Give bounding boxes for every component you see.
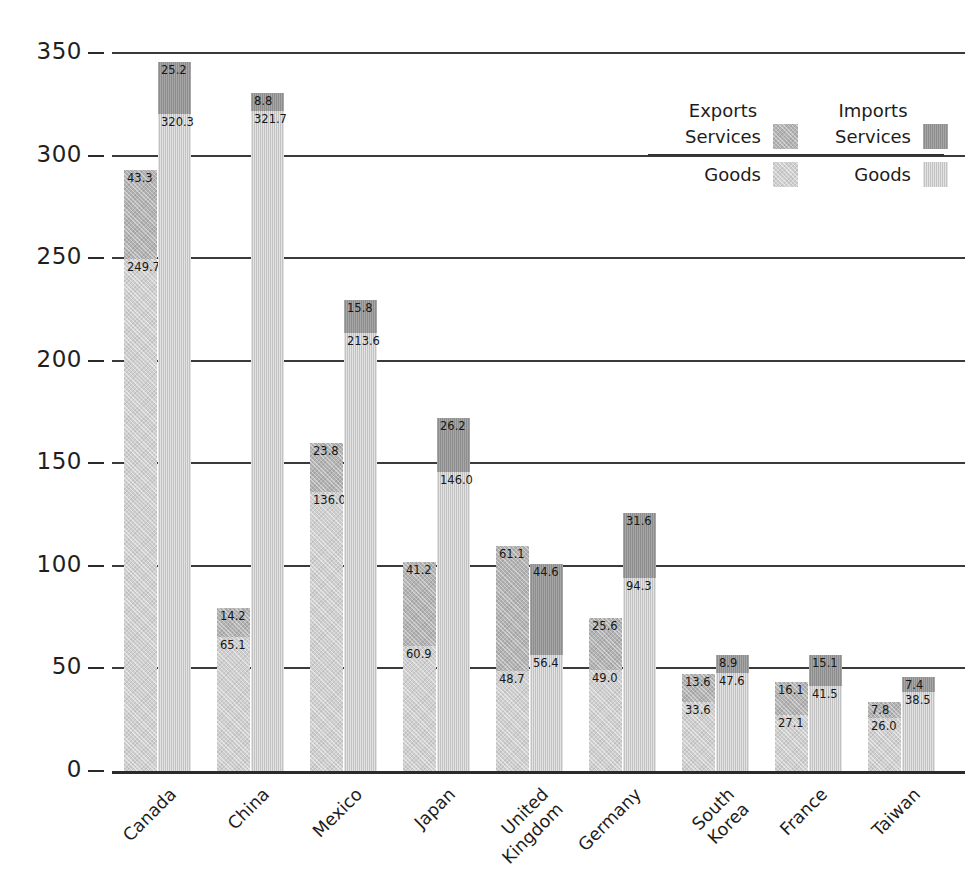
import-services-segment: 26.2	[437, 418, 470, 472]
bar-value-label: 13.6	[685, 676, 711, 688]
import-bar-japan[interactable]: 26.2146.0	[437, 418, 470, 771]
bar-value-label: 38.5	[905, 694, 931, 706]
bar-value-label: 213.6	[347, 335, 380, 347]
bar-value-label: 14.2	[220, 610, 246, 622]
bar-value-label: 25.2	[161, 64, 187, 76]
legend-row-services: Services Services	[648, 124, 948, 149]
legend-swatch-import-services	[923, 124, 948, 149]
import-services-segment: 44.6	[530, 564, 563, 655]
bar-value-label: 15.8	[347, 302, 373, 314]
import-goods-segment: 56.4	[530, 655, 563, 771]
bar-value-label: 7.8	[871, 704, 889, 716]
bar-value-label: 31.6	[626, 515, 652, 527]
export-services-segment: 25.6	[589, 618, 622, 671]
bar-value-label: 16.1	[778, 684, 804, 696]
legend-item-export-goods[interactable]: Goods	[648, 162, 798, 187]
bar-value-label: 27.1	[778, 717, 804, 729]
export-bar-france[interactable]: 16.127.1	[775, 682, 808, 771]
import-bar-china[interactable]: 8.8321.7	[251, 93, 284, 771]
import-services-segment: 25.2	[158, 62, 191, 114]
import-services-segment: 15.8	[344, 300, 377, 332]
bar-value-label: 249.7	[127, 261, 160, 273]
bar-value-label: 60.9	[406, 648, 432, 660]
x-axis-label-canada: Canada	[53, 784, 181, 883]
y-tick-label: 250	[37, 243, 82, 269]
import-services-segment: 31.6	[623, 513, 656, 578]
import-bar-taiwan[interactable]: 7.438.5	[902, 677, 935, 771]
import-services-segment: 7.4	[902, 677, 935, 692]
bar-value-label: 146.0	[440, 474, 473, 486]
bar-value-label: 41.5	[812, 688, 838, 700]
export-goods-segment: 136.0	[310, 492, 343, 771]
bar-value-label: 15.1	[812, 657, 838, 669]
legend-label-import-goods: Goods	[854, 164, 911, 185]
legend-header-exports: Exports	[648, 100, 798, 121]
chart-legend: Exports Imports Services Services Goods …	[648, 100, 948, 187]
legend-item-import-services[interactable]: Services	[798, 124, 948, 149]
y-tick-mark	[88, 770, 104, 772]
bar-value-label: 8.8	[254, 95, 272, 107]
legend-swatch-export-goods	[773, 162, 798, 187]
y-tick-mark	[88, 155, 104, 157]
legend-label-import-services: Services	[835, 126, 911, 147]
y-tick-label: 50	[52, 653, 82, 679]
legend-item-export-services[interactable]: Services	[648, 124, 798, 149]
y-tick-label: 150	[37, 448, 82, 474]
legend-label-export-services: Services	[685, 126, 761, 147]
bar-value-label: 94.3	[626, 580, 652, 592]
bar-value-label: 7.4	[905, 679, 923, 691]
bar-value-label: 33.6	[685, 704, 711, 716]
y-tick-mark	[88, 565, 104, 567]
bar-value-label: 41.2	[406, 564, 432, 576]
bar-group-mexico: 23.8136.015.8213.6	[310, 53, 380, 771]
import-goods-segment: 41.5	[809, 686, 842, 771]
bar-value-label: 44.6	[533, 566, 559, 578]
y-tick-mark	[88, 257, 104, 259]
import-bar-united-kingdom[interactable]: 44.656.4	[530, 564, 563, 771]
export-goods-segment: 49.0	[589, 670, 622, 771]
export-bar-china[interactable]: 14.265.1	[217, 608, 250, 771]
bar-value-label: 49.0	[592, 672, 618, 684]
bar-group-china: 14.265.18.8321.7	[217, 53, 287, 771]
bar-value-label: 320.3	[161, 116, 194, 128]
export-bar-canada[interactable]: 43.3249.7	[124, 170, 157, 771]
export-bar-united-kingdom[interactable]: 61.148.7	[496, 546, 529, 771]
import-bar-france[interactable]: 15.141.5	[809, 655, 842, 771]
export-services-segment: 43.3	[124, 170, 157, 259]
import-bar-mexico[interactable]: 15.8213.6	[344, 300, 377, 771]
export-services-segment: 7.8	[868, 702, 901, 718]
import-bar-south-korea[interactable]: 8.947.6	[716, 655, 749, 771]
bar-group-united-kingdom: 61.148.744.656.4	[496, 53, 566, 771]
y-tick-mark	[88, 360, 104, 362]
bar-value-label: 23.8	[313, 445, 339, 457]
export-bar-south-korea[interactable]: 13.633.6	[682, 674, 715, 771]
legend-header-imports: Imports	[798, 100, 948, 121]
y-tick-mark	[88, 52, 104, 54]
export-services-segment: 23.8	[310, 443, 343, 492]
bar-value-label: 321.7	[254, 113, 287, 125]
export-services-segment: 13.6	[682, 674, 715, 702]
export-bar-mexico[interactable]: 23.8136.0	[310, 443, 343, 771]
legend-label-export-goods: Goods	[704, 164, 761, 185]
export-bar-germany[interactable]: 25.649.0	[589, 618, 622, 771]
bar-value-label: 136.0	[313, 494, 346, 506]
legend-swatch-export-services	[773, 124, 798, 149]
export-services-segment: 16.1	[775, 682, 808, 715]
import-goods-segment: 213.6	[344, 333, 377, 771]
import-bar-canada[interactable]: 25.2320.3	[158, 62, 191, 771]
bar-group-canada: 43.3249.725.2320.3	[124, 53, 194, 771]
export-goods-segment: 26.0	[868, 718, 901, 771]
bar-chart: Billions of dollars 35030025020015010050…	[0, 0, 980, 883]
legend-item-import-goods[interactable]: Goods	[798, 162, 948, 187]
export-goods-segment: 33.6	[682, 702, 715, 771]
x-axis-line	[112, 771, 965, 774]
legend-headers: Exports Imports	[648, 100, 948, 121]
export-bar-taiwan[interactable]: 7.826.0	[868, 702, 901, 771]
import-goods-segment: 38.5	[902, 692, 935, 771]
bar-value-label: 26.0	[871, 720, 897, 732]
legend-swatch-import-goods	[923, 162, 948, 187]
export-bar-japan[interactable]: 41.260.9	[403, 562, 436, 771]
import-goods-segment: 320.3	[158, 114, 191, 771]
export-goods-segment: 65.1	[217, 637, 250, 771]
import-bar-germany[interactable]: 31.694.3	[623, 513, 656, 771]
